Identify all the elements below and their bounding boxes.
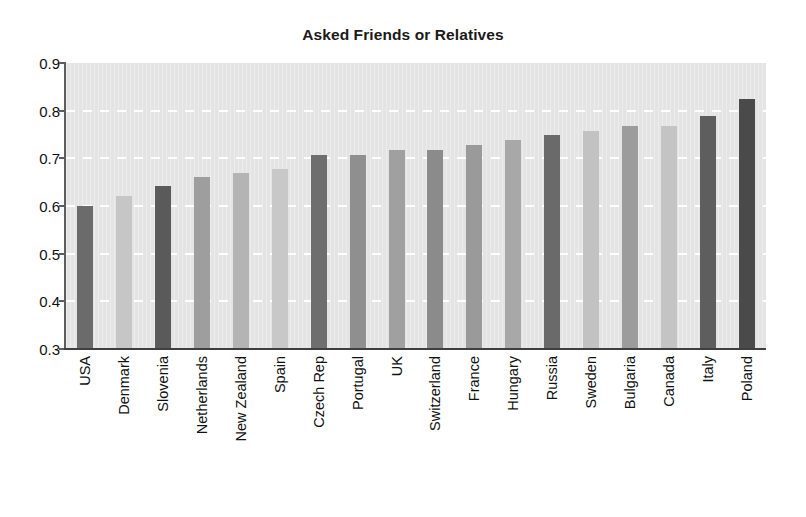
x-axis-tick-label: Bulgaria [623, 356, 638, 409]
y-axis-tick-label: 0.3 [14, 341, 60, 358]
x-axis-tick-label: France [467, 356, 482, 401]
chart-title: Asked Friends or Relatives [0, 26, 806, 44]
bar [739, 99, 755, 349]
x-axis-tick-label-slot: Spain [260, 352, 299, 512]
bar [116, 196, 132, 349]
bar [622, 126, 638, 349]
x-axis-tick-label: Sweden [584, 356, 599, 408]
y-axis-tick-mark [59, 348, 64, 350]
plot-area [66, 63, 766, 349]
y-axis-tick-label: 0.4 [14, 293, 60, 310]
x-axis-tick-label-slot: Italy [688, 352, 727, 512]
x-axis-tick-label: USA [78, 356, 93, 386]
y-axis-tick-mark [59, 300, 64, 302]
y-axis-tick-label: 0.5 [14, 245, 60, 262]
x-axis-tick-label: Hungary [506, 356, 521, 411]
x-axis-tick-label: Spain [273, 356, 288, 393]
x-axis-tick-label-slot: Hungary [494, 352, 533, 512]
y-axis-tick-label: 0.6 [14, 198, 60, 215]
y-axis-line [64, 62, 66, 350]
bar-chart: Asked Friends or Relatives 0.90.80.70.60… [0, 0, 806, 517]
bar [583, 131, 599, 349]
x-axis-line [64, 348, 766, 350]
bar [233, 173, 249, 349]
y-axis-tick-labels: 0.90.80.70.60.50.40.3 [10, 0, 60, 517]
x-axis-tick-label: New Zealand [234, 356, 249, 441]
x-axis-tick-label-slot: Switzerland [416, 352, 455, 512]
x-axis-tick-label: Netherlands [195, 356, 210, 434]
x-axis-tick-label: Czech Rep [312, 356, 327, 428]
x-axis-tick-label-slot: Slovenia [144, 352, 183, 512]
bar [77, 206, 93, 349]
x-axis-tick-label-slot: France [455, 352, 494, 512]
bar [466, 145, 482, 349]
x-axis-tick-label-slot: New Zealand [222, 352, 261, 512]
x-axis-tick-label: Portugal [350, 356, 365, 410]
y-axis-tick-mark [59, 205, 64, 207]
x-axis-tick-label-slot: Portugal [338, 352, 377, 512]
bar [661, 126, 677, 349]
gridline [66, 110, 766, 112]
bar [350, 155, 366, 349]
x-axis-tick-labels: USADenmarkSloveniaNetherlandsNew Zealand… [66, 352, 766, 512]
bar [544, 135, 560, 349]
bar [155, 186, 171, 349]
y-axis-tick-label: 0.9 [14, 55, 60, 72]
x-axis-tick-label-slot: UK [377, 352, 416, 512]
y-axis-tick-mark [59, 157, 64, 159]
x-axis-tick-label: Poland [739, 356, 754, 401]
x-axis-tick-label-slot: Denmark [105, 352, 144, 512]
bar [505, 140, 521, 349]
y-axis-tick-mark [59, 253, 64, 255]
x-axis-tick-label: UK [389, 356, 404, 376]
x-axis-tick-label: Italy [700, 356, 715, 383]
y-axis-tick-label: 0.7 [14, 150, 60, 167]
x-axis-tick-label-slot: Netherlands [183, 352, 222, 512]
x-axis-tick-label-slot: Czech Rep [299, 352, 338, 512]
bar [427, 150, 443, 349]
bar [272, 169, 288, 349]
x-axis-tick-label-slot: Bulgaria [610, 352, 649, 512]
bar [194, 177, 210, 349]
x-axis-tick-label: Slovenia [156, 356, 171, 412]
bar [700, 116, 716, 349]
y-axis-tick-mark [59, 110, 64, 112]
x-axis-tick-label: Canada [662, 356, 677, 407]
x-axis-tick-label-slot: Sweden [572, 352, 611, 512]
x-axis-tick-label-slot: USA [66, 352, 105, 512]
bar [311, 155, 327, 349]
x-axis-tick-label: Russia [545, 356, 560, 400]
x-axis-tick-label-slot: Russia [533, 352, 572, 512]
y-axis-tick-label: 0.8 [14, 102, 60, 119]
x-axis-tick-label-slot: Poland [727, 352, 766, 512]
x-axis-tick-label-slot: Canada [649, 352, 688, 512]
x-axis-tick-label: Switzerland [428, 356, 443, 431]
bar [389, 150, 405, 349]
y-axis-tick-mark [59, 62, 64, 64]
x-axis-tick-label: Denmark [117, 356, 132, 415]
